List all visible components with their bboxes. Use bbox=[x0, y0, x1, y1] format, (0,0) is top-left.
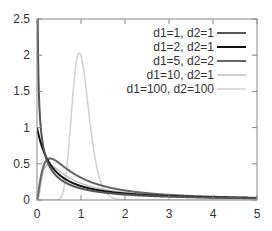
y-tick-label: 0.5 bbox=[13, 157, 30, 171]
y-tick-label: 2 bbox=[23, 48, 30, 62]
x-tick-label: 4 bbox=[210, 207, 217, 221]
y-tick-label: 1 bbox=[23, 121, 30, 135]
y-tick-label: 1.5 bbox=[13, 84, 30, 98]
legend: d1=1, d2=1d1=2, d2=1d1=5, d2=2d1=10, d2=… bbox=[127, 26, 246, 96]
x-tick-label: 5 bbox=[254, 207, 261, 221]
curve-d1-1-d2-1 bbox=[37, 0, 257, 198]
legend-label: d1=5, d2=2 bbox=[153, 54, 214, 68]
y-tick-label: 2.5 bbox=[13, 12, 30, 26]
legend-label: d1=10, d2=1 bbox=[147, 68, 215, 82]
y-tick-label: 0 bbox=[23, 193, 30, 207]
legend-label: d1=1, d2=1 bbox=[153, 26, 214, 40]
x-axis-tick-labels: 012345 bbox=[34, 207, 261, 221]
x-tick-label: 0 bbox=[34, 207, 41, 221]
curve-d1-5-d2-2 bbox=[37, 159, 257, 200]
x-tick-label: 3 bbox=[166, 207, 173, 221]
x-tick-label: 1 bbox=[78, 207, 85, 221]
y-axis-tick-labels: 00.511.522.5 bbox=[13, 12, 30, 207]
legend-label: d1=2, d2=1 bbox=[153, 40, 214, 54]
x-tick-label: 2 bbox=[122, 207, 129, 221]
f-distribution-chart: 012345 00.511.522.5 d1=1, d2=1d1=2, d2=1… bbox=[0, 0, 272, 231]
plot-curves bbox=[37, 0, 257, 200]
legend-label: d1=100, d2=100 bbox=[127, 82, 215, 96]
